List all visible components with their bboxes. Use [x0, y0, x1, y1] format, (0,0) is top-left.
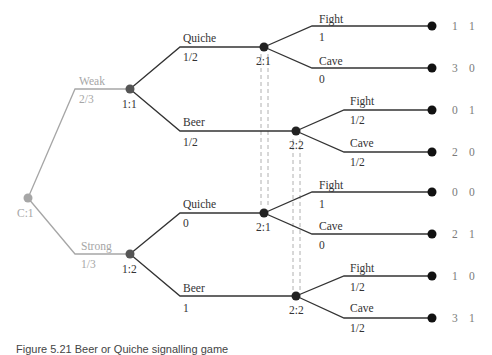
p2-move-label: Fight [350, 262, 374, 274]
chance-node-label: C:1 [17, 207, 34, 219]
chance-node [24, 194, 33, 203]
chance-edges [28, 89, 130, 254]
p2-node-label: 2:2 [289, 304, 304, 316]
payoff-p2: 0 [469, 270, 475, 282]
p2-node-quiche-strong [260, 209, 269, 218]
figure-caption: Figure 5.21 Beer or Quiche signalling ga… [16, 343, 228, 355]
payoff-p1: 1 [452, 20, 458, 32]
p1-move-prob: 1 [183, 302, 189, 314]
p2-node-beer-strong [292, 292, 301, 301]
payoff-p1: 2 [452, 228, 458, 240]
p1-move-prob: 1/2 [183, 136, 198, 148]
p1-node-weak [126, 85, 135, 94]
payoff-p2: 1 [469, 104, 475, 116]
p1-node-strong [126, 250, 135, 259]
payoff-p1: 2 [452, 146, 458, 158]
p2-edges [264, 26, 432, 318]
p1-strong-node-label: 1:2 [122, 263, 137, 275]
chance-move-prob: 1/3 [81, 258, 96, 270]
p2-move-prob: 1/2 [350, 156, 365, 168]
p2-move-label: Cave [350, 302, 374, 314]
p2-move-label: Fight [319, 179, 343, 191]
payoff-p1: 3 [452, 62, 458, 74]
p2-node-beer-weak [292, 127, 301, 136]
p2-node-label: 2:2 [289, 139, 304, 151]
p2-move-label: Cave [350, 137, 374, 149]
payoff-p1: 0 [452, 186, 458, 198]
p2-move-prob: 0 [319, 73, 325, 85]
p2-move-label: Cave [319, 55, 343, 67]
p2-move-label: Fight [319, 13, 343, 25]
payoff-p2: 1 [469, 20, 475, 32]
p2-move-prob: 1/2 [350, 322, 365, 334]
payoff-p2: 1 [469, 228, 475, 240]
p2-move-prob: 1 [319, 31, 325, 43]
p2-move-prob: 1/2 [350, 114, 365, 126]
chance-move-label: Weak [79, 75, 105, 87]
p1-move-prob: 0 [183, 217, 189, 229]
payoff-p1: 0 [452, 104, 458, 116]
p1-move-label: Quiche [183, 32, 216, 44]
info-set-2-2 [293, 139, 300, 290]
p1-move-label: Quiche [183, 198, 216, 210]
p2-move-prob: 1 [319, 198, 325, 210]
p2-node-label: 2:1 [256, 221, 271, 233]
chance-move-prob: 2/3 [79, 93, 94, 105]
p1-move-label: Beer [183, 116, 205, 128]
payoff-p2: 0 [469, 146, 475, 158]
payoff-p1: 3 [452, 312, 458, 324]
payoff-p1: 1 [452, 270, 458, 282]
payoff-p2: 1 [469, 312, 475, 324]
p2-move-prob: 0 [319, 239, 325, 251]
p2-move-label: Cave [319, 220, 343, 232]
chance-move-label: Strong [81, 240, 112, 252]
p2-node-quiche-weak [260, 43, 269, 52]
terminal-nodes [428, 22, 437, 323]
p1-weak-node-label: 1:1 [122, 98, 137, 110]
p2-move-prob: 1/2 [350, 281, 365, 293]
p2-node-label: 2:1 [256, 55, 271, 67]
payoff-p2: 0 [469, 186, 475, 198]
p1-move-label: Beer [183, 282, 205, 294]
p1-move-prob: 1/2 [183, 51, 198, 63]
p1-edges [130, 47, 296, 296]
payoff-p2: 0 [469, 62, 475, 74]
p2-move-label: Fight [350, 95, 374, 107]
